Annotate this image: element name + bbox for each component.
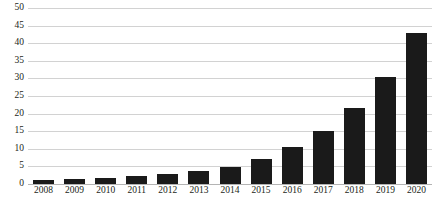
y-axis-tick-35: 35: [15, 56, 25, 66]
bar-slot-2013: [183, 8, 214, 184]
figure-bar-chart: 05101520253035404550 2008200920102011201…: [0, 0, 437, 212]
bar-2011: [126, 176, 147, 184]
bar-slot-2010: [90, 8, 121, 184]
y-axis-tick-15: 15: [15, 126, 25, 136]
y-axis-tick-50: 50: [15, 3, 25, 13]
bar-slot-2012: [152, 8, 183, 184]
bar-slot-2017: [308, 8, 339, 184]
bar-2019: [375, 77, 396, 184]
plot-area: 05101520253035404550: [28, 8, 432, 184]
bar-slot-2008: [28, 8, 59, 184]
y-axis-tick-30: 30: [15, 74, 25, 84]
x-axis-tick-2016: 2016: [277, 185, 308, 195]
bar-2015: [251, 159, 272, 184]
bar-2017: [313, 131, 334, 184]
bar-2020: [406, 33, 427, 184]
y-axis-tick-45: 45: [15, 21, 25, 31]
bar-slot-2018: [339, 8, 370, 184]
bar-slot-2014: [214, 8, 245, 184]
x-axis-tick-2014: 2014: [214, 185, 245, 195]
x-axis-tick-2013: 2013: [183, 185, 214, 195]
y-axis-tick-25: 25: [15, 91, 25, 101]
x-axis-tick-2008: 2008: [28, 185, 59, 195]
x-axis-tick-2015: 2015: [246, 185, 277, 195]
x-axis: 2008200920102011201220132014201520162017…: [28, 185, 432, 195]
bar-2010: [95, 178, 116, 184]
x-axis-tick-2009: 2009: [59, 185, 90, 195]
bar-2008: [33, 180, 54, 184]
x-axis-tick-2018: 2018: [339, 185, 370, 195]
x-axis-tick-2020: 2020: [401, 185, 432, 195]
y-axis-tick-20: 20: [15, 109, 25, 119]
bar-slot-2016: [277, 8, 308, 184]
bar-2013: [188, 171, 209, 184]
x-axis-tick-2012: 2012: [152, 185, 183, 195]
x-axis-tick-2011: 2011: [121, 185, 152, 195]
bar-slot-2020: [401, 8, 432, 184]
y-axis-tick-40: 40: [15, 38, 25, 48]
x-axis-tick-2019: 2019: [370, 185, 401, 195]
bar-2009: [64, 179, 85, 184]
bar-slot-2019: [370, 8, 401, 184]
x-axis-tick-2010: 2010: [90, 185, 121, 195]
bar-slot-2015: [246, 8, 277, 184]
bar-slot-2011: [121, 8, 152, 184]
x-axis-tick-2017: 2017: [308, 185, 339, 195]
y-axis-tick-0: 0: [19, 179, 24, 189]
bar-slot-2009: [59, 8, 90, 184]
bar-2018: [344, 108, 365, 184]
bar-2014: [220, 167, 241, 184]
y-axis-tick-10: 10: [15, 144, 25, 154]
bar-2016: [282, 147, 303, 184]
bar-series: [28, 8, 432, 184]
bar-2012: [157, 174, 178, 184]
y-axis-tick-5: 5: [19, 162, 24, 172]
